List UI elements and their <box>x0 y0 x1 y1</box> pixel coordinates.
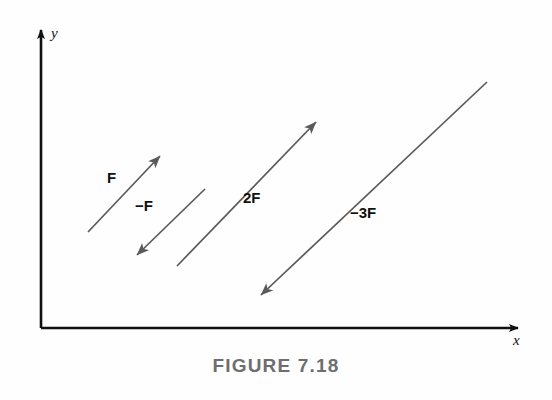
vector-label-2f: 2F <box>243 190 261 205</box>
vector-arrow-f <box>88 156 160 232</box>
figure-page: y x F −F 2F −3F FIGURE 7.18 <box>0 0 552 400</box>
figure-caption: FIGURE 7.18 <box>0 355 552 377</box>
vector-arrow-neg-3f <box>261 82 487 295</box>
vector-label-neg-f: −F <box>135 198 153 213</box>
y-axis-label: y <box>51 26 58 41</box>
vector-label-f: F <box>107 170 116 185</box>
x-axis-label: x <box>513 333 520 348</box>
vector-label-neg-3f: −3F <box>350 205 376 220</box>
vector-diagram <box>0 0 552 400</box>
